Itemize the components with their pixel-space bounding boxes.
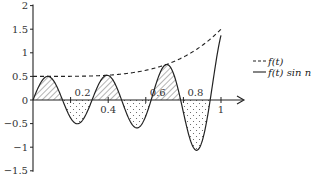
legend-label: f(t) bbox=[267, 56, 284, 67]
y-axis: 21.510.50−0.5−1−1.5 bbox=[4, 0, 33, 176]
y-tick-label: −1.5 bbox=[4, 165, 28, 176]
chart: 21.510.50−0.5−1−1.5 0.20.40.60.81 f(t)f(… bbox=[0, 0, 319, 183]
y-tick-label: −1 bbox=[13, 142, 28, 153]
legend-label: f(t) sin n bbox=[267, 67, 311, 78]
y-tick-label: −0.5 bbox=[4, 118, 28, 129]
y-tick-label: 1 bbox=[22, 47, 28, 58]
y-tick-label: 0.5 bbox=[12, 71, 28, 82]
legend: f(t)f(t) sin n bbox=[253, 56, 311, 78]
y-tick-label: 2 bbox=[22, 0, 28, 11]
y-tick-label: 1.5 bbox=[12, 24, 28, 35]
negative-dotted-area bbox=[63, 100, 211, 150]
x-tick-label: 0.4 bbox=[100, 104, 116, 115]
y-tick-label: 0 bbox=[22, 95, 28, 106]
x-tick-label: 0.2 bbox=[75, 87, 91, 98]
x-tick-label: 0.8 bbox=[187, 87, 203, 98]
f-t-dashed-line bbox=[33, 29, 221, 76]
x-tick-label: 1 bbox=[218, 104, 224, 115]
